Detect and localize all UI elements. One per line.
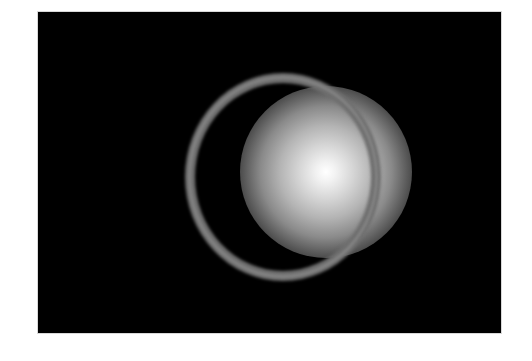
image-canvas [0,0,532,361]
ring-highlight [188,76,378,278]
black-frame [38,12,501,333]
